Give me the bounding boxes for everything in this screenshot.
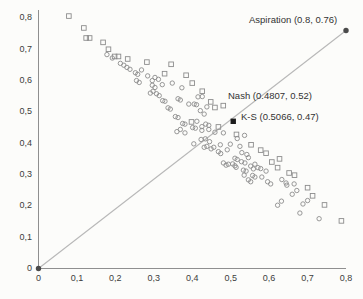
offers-squares-marker (264, 151, 269, 156)
offers-circles-marker (258, 166, 262, 170)
scatter-plot-figure: 00,10,20,30,40,50,60,70,8 00,10,20,30,40… (0, 0, 363, 299)
y-tick-label: 0,6 (2, 76, 32, 85)
offers-circles-marker (221, 131, 225, 135)
offers-circles-marker (240, 150, 244, 154)
offers-squares-marker (277, 157, 282, 162)
offers-circles-marker (202, 145, 206, 149)
offers-squares-marker (270, 160, 275, 165)
aspiration-label: Aspiration (0.8, 0.76) (249, 15, 337, 25)
y-tick-label: 0,7 (2, 45, 32, 54)
offers-squares-marker (125, 57, 130, 62)
offers-circles-marker (268, 182, 272, 186)
offers-circles-marker (228, 142, 232, 146)
offers-circles-marker (145, 74, 149, 78)
offers-circles-marker (122, 63, 126, 67)
x-tick-label: 0,8 (340, 274, 353, 283)
offers-circles-marker (180, 86, 184, 90)
offers-circles-marker (205, 105, 209, 109)
x-tick-label: 0,6 (263, 274, 276, 283)
offers-circles-marker (242, 173, 246, 177)
offers-circles-marker (199, 137, 203, 141)
y-tick-label: 0,3 (2, 170, 32, 179)
offers-circles-marker (317, 217, 321, 221)
offers-circles-marker (264, 169, 268, 173)
ks-point-marker (231, 119, 236, 124)
offers-circles-marker (173, 114, 177, 118)
offers-squares-marker (305, 185, 310, 190)
offers-squares-marker (184, 73, 189, 78)
offers-squares-marker (292, 173, 297, 178)
offers-circles-marker (251, 167, 255, 171)
x-tick-label: 0,3 (148, 274, 161, 283)
offers-circles-marker (187, 102, 191, 106)
offers-squares-marker (258, 148, 263, 153)
origin-point-marker (36, 266, 41, 271)
offers-circles-marker (241, 168, 245, 172)
x-tick-label: 0,4 (186, 274, 199, 283)
offers-circles-marker (248, 164, 252, 168)
x-tick-label: 0 (36, 274, 41, 283)
offers-squares-marker (200, 89, 205, 94)
offers-squares-marker (190, 81, 195, 86)
offers-circles-marker (290, 192, 294, 196)
offers-circles-marker (139, 68, 143, 72)
x-tick-label: 0,7 (301, 274, 314, 283)
y-tick-label: 0,5 (2, 107, 32, 116)
y-tick-label: 0,2 (2, 201, 32, 210)
offers-circles-marker (256, 165, 260, 169)
offers-circles-marker (238, 144, 242, 148)
offers-circles-marker (260, 175, 264, 179)
offers-circles-marker (196, 95, 200, 99)
offers-circles-marker (198, 108, 202, 112)
offers-circles-marker (279, 199, 283, 203)
offers-squares-marker (189, 120, 194, 125)
x-tick-label: 0,1 (71, 274, 84, 283)
offers-circles-marker (156, 77, 160, 81)
offers-circles-marker (205, 144, 209, 148)
offers-circles-marker (292, 182, 296, 186)
offers-circles-marker (225, 148, 229, 152)
plot-canvas (0, 0, 363, 299)
offers-squares-marker (339, 219, 344, 224)
y-tick-label: 0 (2, 264, 32, 273)
offers-squares-marker (84, 36, 89, 41)
offers-circles-marker (298, 211, 302, 215)
offers-circles-marker (176, 115, 180, 119)
offers-circles-marker (305, 198, 309, 202)
offers-circles-marker (265, 180, 269, 184)
aspiration-point-marker (343, 28, 348, 33)
offers-circles-marker (193, 126, 197, 130)
offers-circles-marker (242, 133, 246, 137)
offers-circles-marker (207, 139, 211, 143)
offers-squares-marker (82, 26, 87, 31)
offers-squares-marker (145, 60, 150, 65)
y-tick-label: 0,8 (2, 13, 32, 22)
offers-circles-marker (202, 112, 206, 116)
nash-label: Nash (0.4807, 0.52) (228, 91, 312, 101)
offers-squares-marker (287, 171, 292, 176)
offers-circles-marker (160, 82, 164, 86)
offers-squares-marker (67, 14, 72, 19)
offers-squares-marker (275, 165, 280, 170)
offers-circles-marker (200, 94, 204, 98)
offers-squares-marker (208, 100, 213, 105)
offers-squares-marker (162, 71, 167, 76)
x-tick-label: 0,2 (109, 274, 122, 283)
offers-circles-marker (301, 202, 305, 206)
offers-circles-marker (183, 131, 187, 135)
y-tick-label: 0,4 (2, 139, 32, 148)
offers-squares-marker (87, 36, 92, 41)
offers-squares-marker (213, 105, 218, 110)
offers-squares-marker (249, 142, 254, 147)
ks-label: K-S (0.5066, 0.47) (241, 112, 319, 122)
offers-circles-marker (195, 119, 199, 123)
offers-circles-marker (295, 188, 299, 192)
offers-circles-marker (192, 142, 196, 146)
offers-circles-marker (178, 127, 182, 131)
y-tick-label: 0,1 (2, 233, 32, 242)
offers-squares-marker (106, 47, 111, 52)
offers-circles-marker (170, 81, 174, 85)
offers-squares-marker (169, 62, 174, 67)
offers-squares-marker (101, 40, 106, 45)
offers-squares-marker (322, 203, 327, 208)
